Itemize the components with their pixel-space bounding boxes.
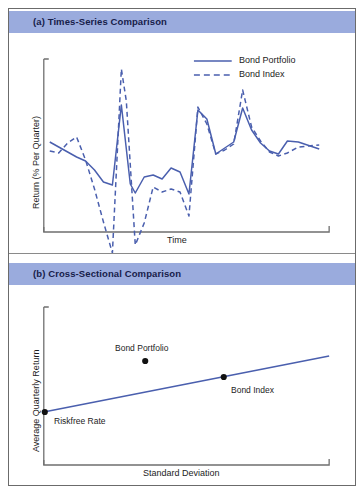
point-riskfree-rate — [42, 409, 48, 415]
panel-b-plot — [9, 254, 355, 486]
label-riskfree-rate: Riskfree Rate — [54, 416, 106, 426]
panel-b-y-axis-label: Average Quarterly Return — [31, 350, 41, 452]
market-line — [44, 356, 329, 412]
panel-cross-sectional: (b) Cross-Sectional Comparison Riskfree … — [9, 254, 355, 486]
label-bond-portfolio: Bond Portfolio — [115, 343, 168, 353]
legend-label-bond-index: Bond Index — [239, 69, 285, 79]
figure-frame: (a) Times-Series Comparison Bond Portfol… — [8, 8, 356, 486]
legend-label-bond-portfolio: Bond Portfolio — [239, 55, 296, 65]
panel-a-y-axis-label: Return (% Per Quarter) — [31, 116, 41, 209]
panel-b-x-axis — [44, 459, 329, 465]
point-bond-index — [221, 374, 227, 380]
point-bond-portfolio — [142, 358, 148, 364]
label-bond-index: Bond Index — [231, 385, 274, 395]
panel-a-x-axis-label: Time — [167, 235, 187, 245]
panel-b-x-axis-label: Standard Deviation — [143, 468, 220, 478]
panel-times-series: (a) Times-Series Comparison Bond Portfol… — [9, 9, 355, 253]
panel-a-legend-marks — [9, 9, 355, 253]
panel-b-y-axis — [44, 307, 49, 465]
